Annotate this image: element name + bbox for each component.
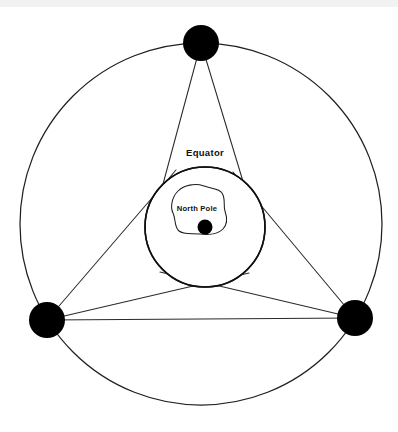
diagram-canvas: North Pole Equator xyxy=(0,0,398,432)
satellite-bottom-right[interactable] xyxy=(337,300,373,336)
equator-label: Equator xyxy=(186,147,224,158)
satellite-top[interactable] xyxy=(183,25,219,61)
baseline-bl-br xyxy=(47,318,355,320)
satellite-bottom-left[interactable] xyxy=(29,302,65,338)
earth-globe: North Pole xyxy=(145,167,280,287)
north-pole-marker xyxy=(198,220,213,235)
satellite-orbit-diagram: North Pole Equator xyxy=(0,0,398,432)
north-pole-label: North Pole xyxy=(177,204,217,213)
